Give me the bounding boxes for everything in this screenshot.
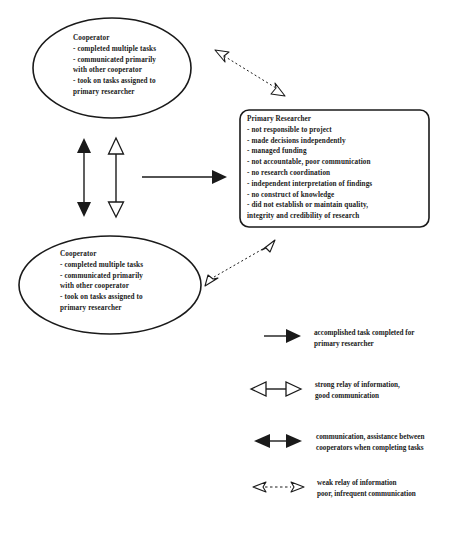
primary-researcher-line: - independent interpretation of findings <box>247 179 372 190</box>
legend-label: poor, infrequent communication <box>317 489 416 500</box>
cooperator-bottom-text: Cooperator - completed multiple tasks - … <box>60 249 143 314</box>
legend-label: communication, assistance between <box>316 432 424 443</box>
cooperator-bottom-title: Cooperator <box>60 249 143 260</box>
cooperator-bottom-line: - took on tasks assigned to <box>60 292 143 303</box>
legend-label: accomplished task completed for <box>314 328 414 339</box>
legend-icon-solid-arrow-right <box>264 329 301 343</box>
legend-item-weak-relay: weak relay of information poor, infreque… <box>317 478 416 499</box>
legend-label: cooperators when completing tasks <box>316 443 424 454</box>
cooperator-top-line: - communicated primarily <box>73 55 156 66</box>
solid-double-arrow-vertical <box>77 138 91 217</box>
primary-researcher-line: - made decisions independently <box>247 136 372 147</box>
cooperator-top-text: Cooperator - completed multiple tasks - … <box>73 33 156 98</box>
primary-researcher-line: - not responsible to project <box>247 125 372 136</box>
dashed-hollow-arrow-top <box>215 50 285 96</box>
cooperator-bottom-line: - communicated primarily <box>60 271 143 282</box>
legend-label: weak relay of information <box>317 478 416 489</box>
cooperator-top-line: - completed multiple tasks <box>73 44 156 55</box>
primary-researcher-line: integrity and credibility of research <box>247 211 372 222</box>
legend-icon-hollow-double-arrow <box>251 382 301 396</box>
legend-icon-solid-double-arrow <box>254 434 302 448</box>
cooperator-top-line: with other cooperator <box>73 65 156 76</box>
legend-item-strong-relay: strong relay of information, good commun… <box>315 380 400 401</box>
primary-researcher-text: Primary Researcher - not responsible to … <box>247 114 372 222</box>
dashed-hollow-arrow-bottom <box>205 240 275 286</box>
cooperator-top-title: Cooperator <box>73 33 156 44</box>
legend-label: strong relay of information, <box>315 380 400 391</box>
cooperator-top-line: primary researcher <box>73 87 156 98</box>
legend-item-cooperator-assistance: communication, assistance between cooper… <box>316 432 424 453</box>
primary-researcher-line: - no research coordination <box>247 168 372 179</box>
cooperator-bottom-line: with other cooperator <box>60 281 143 292</box>
cooperator-top-line: - took on tasks assigned to <box>73 76 156 87</box>
legend-item-task-completed: accomplished task completed for primary … <box>314 328 414 349</box>
primary-researcher-line: - no construct of knowledge <box>247 190 372 201</box>
primary-researcher-line: - managed funding <box>247 146 372 157</box>
primary-researcher-line: - not accountable, poor communication <box>247 157 372 168</box>
hollow-double-arrow-vertical <box>109 138 124 217</box>
cooperator-bottom-line: - completed multiple tasks <box>60 260 143 271</box>
primary-researcher-line: - did not establish or maintain quality, <box>247 200 372 211</box>
solid-arrow-right <box>142 170 227 184</box>
cooperator-bottom-line: primary researcher <box>60 303 143 314</box>
primary-researcher-title: Primary Researcher <box>247 114 372 125</box>
legend-label: good communication <box>315 391 400 402</box>
legend-label: primary researcher <box>314 339 414 350</box>
legend-icon-dashed-hollow-double-arrow <box>253 482 304 492</box>
